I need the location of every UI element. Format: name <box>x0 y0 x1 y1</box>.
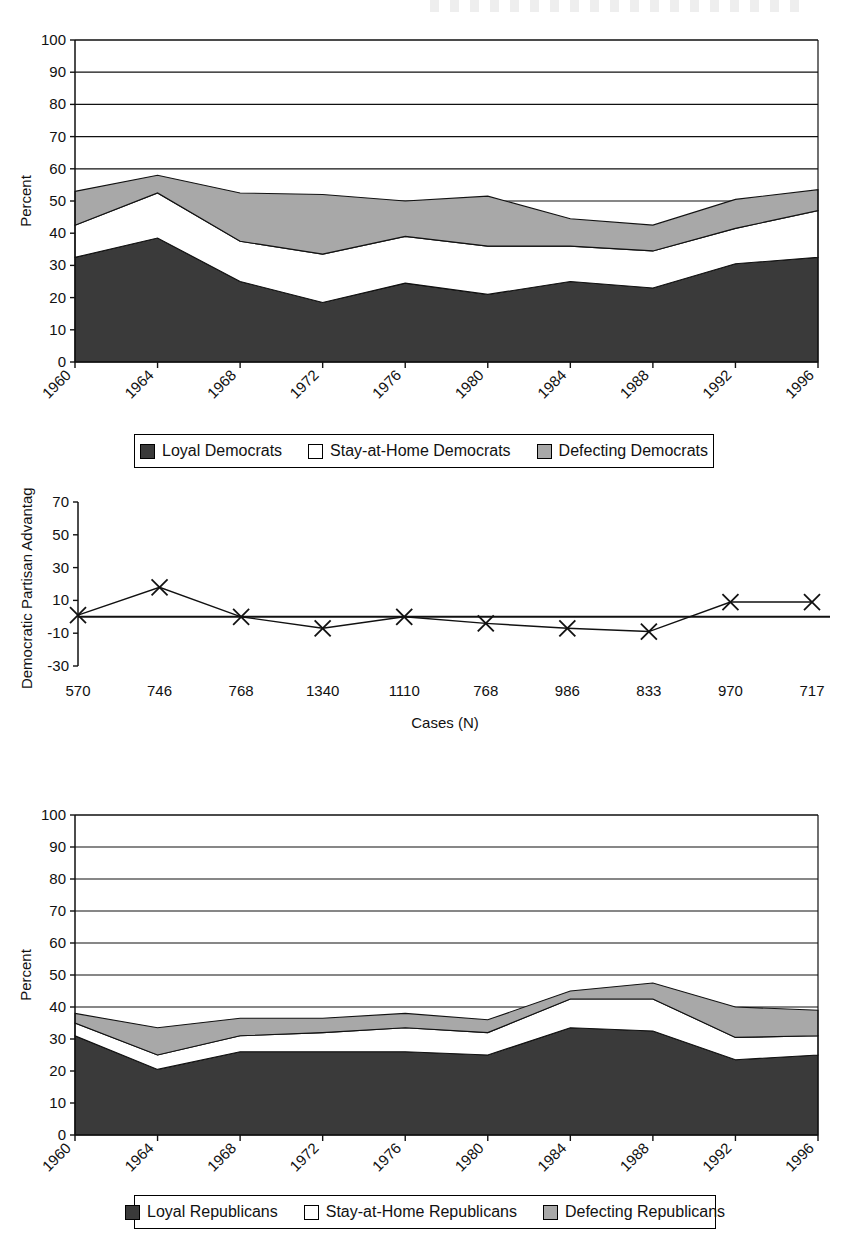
data-point-marker-x <box>315 620 331 636</box>
y-tick-label: 30 <box>52 559 69 576</box>
x-tick-label: 1972 <box>286 366 322 402</box>
legend-item-stay-at-home-republicans: Stay-at-Home Republicans <box>304 1204 517 1220</box>
legend-item-defecting-democrats: Defecting Democrats <box>537 443 708 459</box>
legend-swatch-loyal-democrats <box>140 444 155 459</box>
x-tick-label: 1964 <box>121 1139 157 1175</box>
x-tick-label: 1968 <box>204 366 240 402</box>
republicans-chart-panel: 0102030405060708090100196019641968197219… <box>0 795 848 1195</box>
y-tick-label: 100 <box>41 806 66 823</box>
x-tick-label: 1960 <box>39 1139 75 1175</box>
republicans-chart-canvas: 0102030405060708090100196019641968197219… <box>0 795 848 1195</box>
legend-swatch-defecting-republicans <box>543 1205 558 1220</box>
y-tick-label: 40 <box>49 998 66 1015</box>
case-count-label: 986 <box>555 682 580 699</box>
republicans-legend: Loyal Republicans Stay-at-Home Republica… <box>134 1195 716 1229</box>
legend-swatch-stay-at-home-republicans <box>304 1205 319 1220</box>
case-count-label: 746 <box>147 682 172 699</box>
y-tick-label: 60 <box>49 160 66 177</box>
y-tick-label: 50 <box>49 192 66 209</box>
y-axis-title: Democratic Partisan Advantage <box>18 488 35 689</box>
y-tick-label: -30 <box>47 657 69 674</box>
x-tick-label: 1992 <box>699 1139 735 1175</box>
x-tick-label: 1984 <box>534 1139 570 1175</box>
legend-item-stay-at-home-democrats: Stay-at-Home Democrats <box>308 443 511 459</box>
x-tick-label: 1988 <box>616 1139 652 1175</box>
republicans-area-svg: 0102030405060708090100196019641968197219… <box>0 795 848 1195</box>
y-tick-label: 60 <box>49 934 66 951</box>
y-tick-label: 40 <box>49 224 66 241</box>
y-tick-label: 80 <box>49 870 66 887</box>
svg3-plot: 0102030405060708090100196019641968197219… <box>17 806 818 1175</box>
scan-artifact-top <box>430 0 810 12</box>
legend-label-defecting-republicans: Defecting Republicans <box>565 1204 725 1220</box>
x-axis-title: Cases (N) <box>411 714 479 731</box>
y-tick-label: 80 <box>49 95 66 112</box>
y-tick-label: 50 <box>49 966 66 983</box>
legend-swatch-loyal-republicans <box>125 1205 140 1220</box>
legend-label-stay-at-home-republicans: Stay-at-Home Republicans <box>326 1204 517 1220</box>
case-count-label: 1340 <box>306 682 339 699</box>
y-tick-label: 10 <box>52 591 69 608</box>
partisan-advantage-svg: -30-101030507057074676813401110768986833… <box>0 488 848 768</box>
y-tick-label: 70 <box>49 902 66 919</box>
case-count-label: 717 <box>799 682 824 699</box>
case-count-label: 1110 <box>389 682 420 699</box>
y-tick-label: 30 <box>49 1030 66 1047</box>
partisan-advantage-line <box>78 587 812 631</box>
x-tick-label: 1992 <box>699 366 735 402</box>
x-tick-label: 1976 <box>369 1139 405 1175</box>
y-tick-label: 20 <box>49 289 66 306</box>
svg1-plot: 0102030405060708090100196019641968197219… <box>17 31 818 402</box>
case-count-label: 570 <box>65 682 90 699</box>
democrats-chart-panel: 0102030405060708090100196019641968197219… <box>0 18 848 428</box>
data-point-marker-x <box>152 579 168 595</box>
x-tick-label: 1964 <box>121 366 157 402</box>
legend-label-stay-at-home-democrats: Stay-at-Home Democrats <box>330 443 511 459</box>
x-tick-label: 1972 <box>286 1139 322 1175</box>
partisan-advantage-chart-panel: -30-101030507057074676813401110768986833… <box>0 488 848 768</box>
legend-swatch-stay-at-home-democrats <box>308 444 323 459</box>
x-tick-label: 1996 <box>782 1139 818 1175</box>
y-tick-label: 90 <box>49 838 66 855</box>
legend-label-loyal-democrats: Loyal Democrats <box>162 443 282 459</box>
democrats-area-svg: 0102030405060708090100196019641968197219… <box>0 18 848 428</box>
case-count-label: 768 <box>229 682 254 699</box>
legend-item-loyal-democrats: Loyal Democrats <box>140 443 282 459</box>
y-tick-label: 10 <box>49 321 66 338</box>
y-tick-label: 20 <box>49 1062 66 1079</box>
y-tick-label: 90 <box>49 63 66 80</box>
x-tick-label: 1980 <box>451 1139 487 1175</box>
y-tick-label: 70 <box>49 128 66 145</box>
legend-item-loyal-republicans: Loyal Republicans <box>125 1204 278 1220</box>
legend-item-defecting-republicans: Defecting Republicans <box>543 1204 725 1220</box>
x-tick-label: 1988 <box>616 366 652 402</box>
svg2-plot: -30-101030507057074676813401110768986833… <box>18 488 830 731</box>
y-tick-label: 50 <box>52 526 69 543</box>
y-tick-label: 10 <box>49 1094 66 1111</box>
y-tick-label: 100 <box>41 31 66 48</box>
case-count-label: 970 <box>718 682 743 699</box>
democrats-legend: Loyal Democrats Stay-at-Home Democrats D… <box>134 434 714 468</box>
y-tick-label: -10 <box>47 624 69 641</box>
democrats-chart-canvas: 0102030405060708090100196019641968197219… <box>0 18 848 428</box>
legend-swatch-defecting-democrats <box>537 444 552 459</box>
legend-label-loyal-republicans: Loyal Republicans <box>147 1204 278 1220</box>
case-count-label: 768 <box>473 682 498 699</box>
x-tick-label: 1968 <box>204 1139 240 1175</box>
x-tick-label: 1980 <box>451 366 487 402</box>
x-tick-label: 1976 <box>369 366 405 402</box>
y-axis-title: Percent <box>17 174 34 227</box>
x-tick-label: 1984 <box>534 366 570 402</box>
x-tick-label: 1960 <box>39 366 75 402</box>
x-tick-label: 1996 <box>782 366 818 402</box>
legend-label-defecting-democrats: Defecting Democrats <box>559 443 708 459</box>
y-axis-title: Percent <box>17 948 34 1001</box>
case-count-label: 833 <box>636 682 661 699</box>
partisan-advantage-canvas: -30-101030507057074676813401110768986833… <box>0 488 848 768</box>
y-tick-label: 70 <box>52 493 69 510</box>
y-tick-label: 30 <box>49 256 66 273</box>
